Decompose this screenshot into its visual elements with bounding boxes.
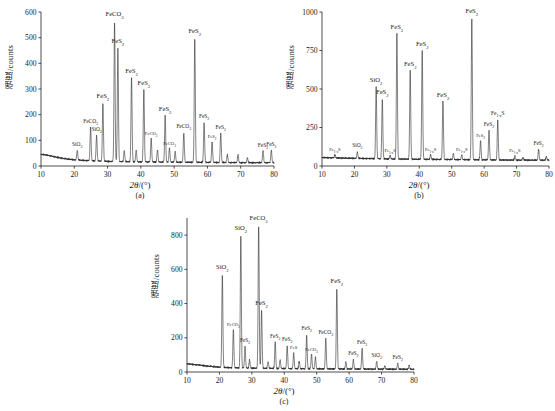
svg-text:600: 600 xyxy=(25,8,37,17)
svg-text:10: 10 xyxy=(37,170,45,179)
svg-text:SiO2: SiO2 xyxy=(216,263,229,273)
svg-text:Fe1-xS: Fe1-xS xyxy=(491,110,504,118)
svg-text:80: 80 xyxy=(545,170,553,179)
svg-text:0: 0 xyxy=(33,162,37,171)
panel-b-plot: 025050075010001020304050607080Fe1-xSSiO2… xyxy=(281,0,555,182)
panel-a-y-axis-label: 强度/counts xyxy=(4,45,16,89)
svg-text:FeS2: FeS2 xyxy=(404,60,417,70)
svg-text:500: 500 xyxy=(306,85,318,94)
svg-text:20: 20 xyxy=(70,170,78,179)
svg-text:FeS2: FeS2 xyxy=(199,113,209,121)
svg-text:FeS2: FeS2 xyxy=(112,37,125,47)
svg-text:Fe1-xS: Fe1-xS xyxy=(456,147,468,154)
svg-text:Fe1-xS: Fe1-xS xyxy=(425,147,437,154)
svg-text:40: 40 xyxy=(280,376,288,385)
svg-text:Fe1-xS: Fe1-xS xyxy=(329,147,341,154)
svg-text:FeS2: FeS2 xyxy=(476,133,485,140)
svg-text:FeS2: FeS2 xyxy=(188,27,201,37)
svg-text:FeCO3: FeCO3 xyxy=(318,329,333,337)
panel-c-y-axis-label: 强度/counts xyxy=(150,254,162,298)
svg-text:FeS2: FeS2 xyxy=(97,92,110,102)
svg-text:FeS2: FeS2 xyxy=(240,337,250,345)
svg-text:30: 30 xyxy=(104,170,112,179)
svg-text:10: 10 xyxy=(318,170,326,179)
svg-text:FeS2: FeS2 xyxy=(270,333,280,341)
svg-text:10: 10 xyxy=(183,376,191,385)
svg-text:100: 100 xyxy=(25,136,37,145)
svg-text:70: 70 xyxy=(237,170,245,179)
panel-c-x-axis-label: 2θ/(°) xyxy=(244,386,324,396)
svg-text:FeS2: FeS2 xyxy=(357,339,367,347)
svg-text:SiO2: SiO2 xyxy=(72,141,82,149)
svg-text:FeS2: FeS2 xyxy=(393,354,403,362)
svg-text:40: 40 xyxy=(137,170,145,179)
svg-text:FeS2: FeS2 xyxy=(484,121,494,129)
svg-text:20: 20 xyxy=(216,376,224,385)
svg-text:SiO2: SiO2 xyxy=(352,142,362,150)
svg-text:600: 600 xyxy=(171,265,183,274)
panel-c-plot: 02004006008001020304050607080SiO2FeCO3Si… xyxy=(140,206,420,388)
svg-text:200: 200 xyxy=(25,110,37,119)
svg-text:80: 80 xyxy=(410,376,418,385)
svg-text:400: 400 xyxy=(171,299,183,308)
svg-text:FeS2: FeS2 xyxy=(138,79,151,89)
svg-text:FeS2: FeS2 xyxy=(376,88,389,98)
svg-text:SiO2: SiO2 xyxy=(235,224,248,234)
svg-text:FeS2: FeS2 xyxy=(301,325,311,333)
svg-text:60: 60 xyxy=(204,170,212,179)
svg-text:400: 400 xyxy=(25,59,37,68)
svg-text:20: 20 xyxy=(351,170,359,179)
svg-text:70: 70 xyxy=(513,170,521,179)
svg-text:30: 30 xyxy=(248,376,256,385)
xrd-panel-c: 强度/counts 02004006008001020304050607080S… xyxy=(140,206,420,411)
panel-a-x-axis-label: 2θ/(°) xyxy=(100,180,180,190)
svg-text:FeCO3: FeCO3 xyxy=(176,123,191,131)
svg-text:750: 750 xyxy=(306,46,318,55)
svg-text:SiO2: SiO2 xyxy=(370,76,383,86)
svg-text:FeS2: FeS2 xyxy=(437,91,450,101)
svg-text:50: 50 xyxy=(448,170,456,179)
svg-text:60: 60 xyxy=(480,170,488,179)
svg-text:FeS2: FeS2 xyxy=(391,23,404,32)
svg-text:40: 40 xyxy=(415,170,423,179)
svg-text:FeS2: FeS2 xyxy=(208,134,217,141)
svg-text:500: 500 xyxy=(25,33,37,42)
svg-text:FeS2: FeS2 xyxy=(216,124,226,132)
svg-text:FeCO3: FeCO3 xyxy=(227,322,240,329)
svg-text:FeCO3: FeCO3 xyxy=(105,10,124,20)
svg-text:0: 0 xyxy=(179,368,183,377)
svg-text:300: 300 xyxy=(25,85,37,94)
svg-text:800: 800 xyxy=(171,231,183,240)
svg-text:FeS2: FeS2 xyxy=(282,336,292,344)
svg-text:FeS: FeS xyxy=(290,345,298,350)
svg-text:SiO2: SiO2 xyxy=(372,352,382,360)
svg-text:FeS2: FeS2 xyxy=(330,277,343,287)
svg-text:0: 0 xyxy=(314,162,318,171)
panel-a-caption: (a) xyxy=(120,191,160,200)
svg-text:50: 50 xyxy=(170,170,178,179)
svg-text:FeCO3: FeCO3 xyxy=(250,214,269,224)
svg-text:FeS2: FeS2 xyxy=(125,67,138,77)
panel-c-caption: (c) xyxy=(264,397,304,406)
svg-text:80: 80 xyxy=(270,170,278,179)
svg-text:60: 60 xyxy=(345,376,353,385)
panel-b-caption: (b) xyxy=(399,191,439,200)
svg-text:FeS2: FeS2 xyxy=(348,350,358,358)
svg-text:FeCO3: FeCO3 xyxy=(163,141,176,148)
svg-text:FeS2: FeS2 xyxy=(533,140,543,148)
svg-text:30: 30 xyxy=(383,170,391,179)
svg-text:Fe1-xS: Fe1-xS xyxy=(384,148,396,155)
svg-text:50: 50 xyxy=(313,376,321,385)
svg-text:FeS2: FeS2 xyxy=(416,40,429,50)
xrd-panel-b: 强度/counts 025050075010001020304050607080… xyxy=(281,0,555,200)
svg-text:FeCO3: FeCO3 xyxy=(145,131,158,138)
svg-text:1000: 1000 xyxy=(302,8,317,17)
svg-text:SiO2: SiO2 xyxy=(91,126,101,134)
svg-text:Fe1-xS: Fe1-xS xyxy=(509,148,521,155)
panel-b-x-axis-label: 2θ/(°) xyxy=(379,180,459,190)
svg-text:FeS2: FeS2 xyxy=(159,105,172,115)
svg-text:200: 200 xyxy=(171,333,183,342)
panel-a-plot: 01002003004005006001020304050607080SiO2F… xyxy=(0,0,280,182)
svg-text:FeS2: FeS2 xyxy=(465,7,478,17)
svg-text:70: 70 xyxy=(378,376,386,385)
